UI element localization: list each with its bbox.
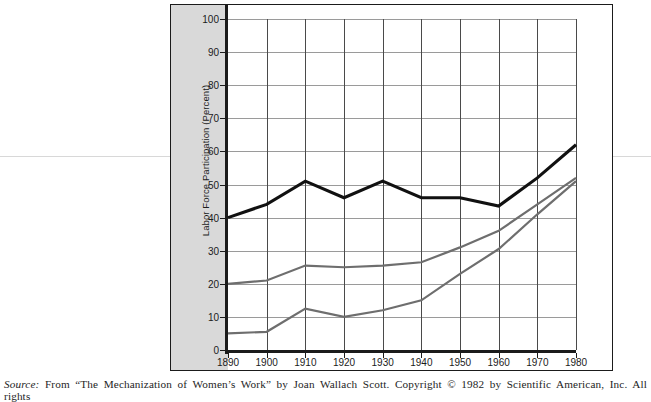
x-tick-label: 1910 (283, 357, 327, 368)
source-body: From “The Mechanization of Women’s Work”… (4, 378, 647, 402)
plot-area (228, 19, 576, 350)
x-tick-label: 1890 (206, 357, 250, 368)
x-tick-mark (228, 353, 229, 358)
chart-series-layer (228, 19, 576, 350)
x-tick-label: 1960 (477, 357, 521, 368)
x-tick-label: 1950 (438, 357, 482, 368)
x-tick-label: 1980 (554, 357, 598, 368)
x-tick-label: 1900 (245, 357, 289, 368)
x-tick-mark (537, 353, 538, 358)
x-tick-mark (499, 353, 500, 358)
y-tick-label: 70 (177, 113, 219, 124)
x-tick-mark (305, 353, 306, 358)
series-line-series-black (228, 145, 576, 218)
page-rule-left (0, 156, 170, 157)
y-tick-label: 60 (177, 146, 219, 157)
y-tick-label: 10 (177, 311, 219, 322)
series-line-series-gray-lower (228, 181, 576, 333)
y-tick-label: 50 (177, 179, 219, 190)
x-tick-label: 1920 (322, 357, 366, 368)
gridline-vertical (576, 19, 577, 350)
x-tick-mark (344, 353, 345, 358)
y-tick-label: 40 (177, 212, 219, 223)
x-tick-mark (383, 353, 384, 358)
y-tick-label: 80 (177, 80, 219, 91)
source-label: Source: (4, 378, 39, 390)
x-tick-mark (460, 353, 461, 358)
x-tick-mark (421, 353, 422, 358)
x-tick-mark (576, 353, 577, 358)
y-tick-label: 90 (177, 47, 219, 58)
y-tick-label: 30 (177, 245, 219, 256)
x-tick-label: 1930 (361, 357, 405, 368)
series-line-series-gray-upper (228, 178, 576, 284)
x-axis-line (225, 350, 576, 353)
source-caption: Source: From “The Mechanization of Women… (4, 378, 647, 402)
y-tick-label: 100 (177, 14, 219, 25)
x-tick-label: 1970 (515, 357, 559, 368)
chart-figure: Labor Force Participation (Percent) 0102… (170, 4, 613, 371)
x-tick-mark (267, 353, 268, 358)
y-tick-label: 0 (177, 345, 219, 356)
page-rule-right (613, 156, 651, 157)
x-tick-label: 1940 (399, 357, 443, 368)
y-tick-label: 20 (177, 278, 219, 289)
